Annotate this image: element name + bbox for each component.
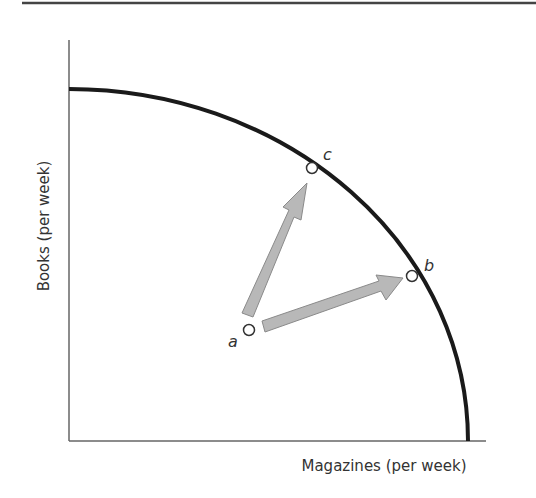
point-c-label: c xyxy=(323,145,332,164)
point-a-marker xyxy=(244,325,255,336)
point-c-marker xyxy=(307,163,318,174)
point-b-marker xyxy=(407,271,418,282)
arrow-a-to-c xyxy=(242,183,307,317)
point-a-label: a xyxy=(228,332,238,351)
point-b-label: b xyxy=(424,256,434,275)
ppf-diagram: Books (per week) Magazines (per week) a … xyxy=(0,0,536,498)
x-axis-label: Magazines (per week) xyxy=(301,457,466,475)
arrow-a-to-b xyxy=(262,275,403,332)
y-axis-label: Books (per week) xyxy=(35,161,53,292)
